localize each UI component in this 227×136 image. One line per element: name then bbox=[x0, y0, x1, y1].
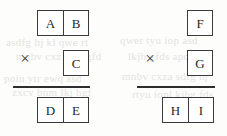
problem-left: A B × C D E bbox=[0, 0, 110, 136]
answer-rule-right bbox=[137, 86, 215, 88]
answer-cell-e[interactable]: E bbox=[63, 98, 88, 122]
answer-cell-f[interactable]: F bbox=[188, 11, 212, 35]
answer-cell-i[interactable]: I bbox=[188, 98, 213, 122]
product-boxes-right: H I bbox=[162, 97, 214, 123]
answer-cell-b[interactable]: B bbox=[63, 11, 88, 35]
multiplier-boxes-right: G bbox=[187, 50, 213, 76]
worksheet-page: asdfg hj kl qwe rt mnbv cxz lkjh gfd poi… bbox=[0, 0, 227, 136]
multiplicand-boxes-right: F bbox=[187, 10, 213, 36]
answer-cell-c[interactable]: C bbox=[64, 51, 88, 75]
problem-right: F × G H I bbox=[124, 0, 227, 136]
multiplication-sign-right: × bbox=[142, 51, 158, 67]
answer-rule-left bbox=[13, 86, 90, 88]
answer-cell-h[interactable]: H bbox=[163, 98, 188, 122]
answer-cell-a[interactable]: A bbox=[38, 11, 63, 35]
multiplier-boxes-left: C bbox=[63, 50, 89, 76]
answer-cell-g[interactable]: G bbox=[188, 51, 212, 75]
multiplication-sign-left: × bbox=[17, 51, 33, 67]
product-boxes-left: D E bbox=[37, 97, 89, 123]
multiplicand-boxes-left: A B bbox=[37, 10, 89, 36]
answer-cell-d[interactable]: D bbox=[38, 98, 63, 122]
